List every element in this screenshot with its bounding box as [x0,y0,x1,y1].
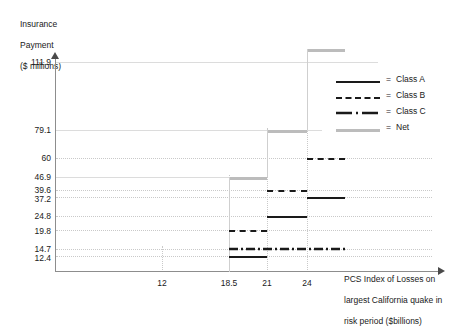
ytick-label-60: 60 [7,153,51,163]
xtick-label-24: 24 [287,278,327,288]
gridline-37-2 [56,197,432,198]
chart-legend: = Class A = Class B = Class C = Net [336,74,460,138]
legend-swatch-class-c [336,111,380,115]
gridline-14-7 [56,249,432,250]
legend-swatch-class-b [336,97,380,99]
series-class-b-segment-1 [229,230,267,232]
y-axis-line [55,58,56,272]
legend-label-class-a: Class A [396,74,425,84]
series-net-segment-2 [267,130,307,133]
ytick-label-19-8: 19.8 [7,226,51,236]
legend-item-class-a: = Class A [336,74,460,90]
legend-equals-class-a: = [386,74,391,84]
series-net-riser-2 [267,130,268,177]
legend-item-class-c: = Class C [336,106,460,122]
vgridline-12 [162,246,163,272]
gridline-111-9 [56,62,378,63]
series-net-segment-1 [229,177,267,180]
series-class-b-segment-3 [307,158,345,160]
xtick-label-12: 12 [142,278,182,288]
series-class-a-segment-2 [267,216,307,218]
series-class-a-segment-3 [307,197,345,199]
x-axis-title-line-2: largest California quake in [344,295,464,306]
x-axis-title-line-3: risk period ($billions) [344,316,464,327]
legend-swatch-class-a [336,81,380,83]
gridline-60 [56,158,432,159]
y-axis-title-line-2: Payment [20,40,61,51]
gridline-24-8 [56,216,432,217]
xtick-label-18-5: 18.5 [209,278,249,288]
series-class-b-segment-2 [267,190,307,192]
legend-label-net: Net [396,122,409,132]
legend-item-class-b: = Class B [336,90,460,106]
ytick-label-46-9: 46.9 [7,172,51,182]
x-axis-arrow-icon [438,267,445,275]
y-axis-arrow-icon [51,52,59,59]
y-axis-title-line-1: Insurance [20,19,61,30]
legend-equals-class-b: = [386,90,391,100]
ytick-label-111-9: 111.9 [7,57,51,67]
ytick-label-24-8: 24.8 [7,211,51,221]
ytick-label-79-1: 79.1 [7,125,51,135]
legend-equals-class-c: = [386,106,391,116]
legend-equals-net: = [386,122,391,132]
ytick-label-12-4: 12.4 [7,253,51,263]
legend-label-class-b: Class B [396,90,425,100]
x-axis-title: PCS Index of Losses on largest Californi… [344,263,464,330]
x-axis-title-line-1: PCS Index of Losses on [344,274,464,285]
x-axis-line [55,271,440,272]
legend-label-class-c: Class C [396,106,426,116]
ytick-label-37-2: 37.2 [7,194,51,204]
series-net-riser-3 [307,49,308,130]
legend-swatch-net [336,129,380,132]
xtick-label-21: 21 [247,278,287,288]
series-class-a-segment-1 [229,256,267,258]
series-net-segment-3 [307,49,345,52]
legend-item-net: = Net [336,122,460,138]
gridline-39-6 [56,190,432,191]
